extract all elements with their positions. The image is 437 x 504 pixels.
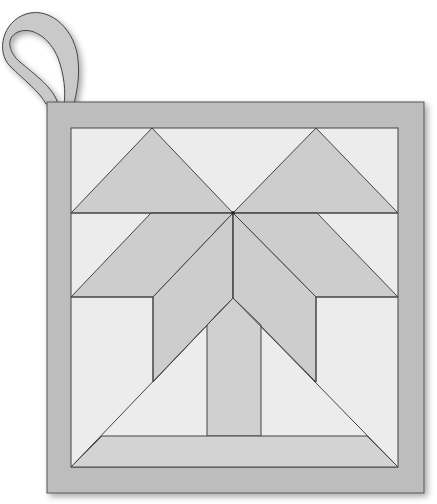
hanging-loop xyxy=(3,13,79,104)
loop-shape xyxy=(3,13,79,104)
bottom-strip xyxy=(71,436,398,467)
potholder-illustration: Potholder quilt block xyxy=(0,0,437,504)
center-point xyxy=(231,211,234,214)
